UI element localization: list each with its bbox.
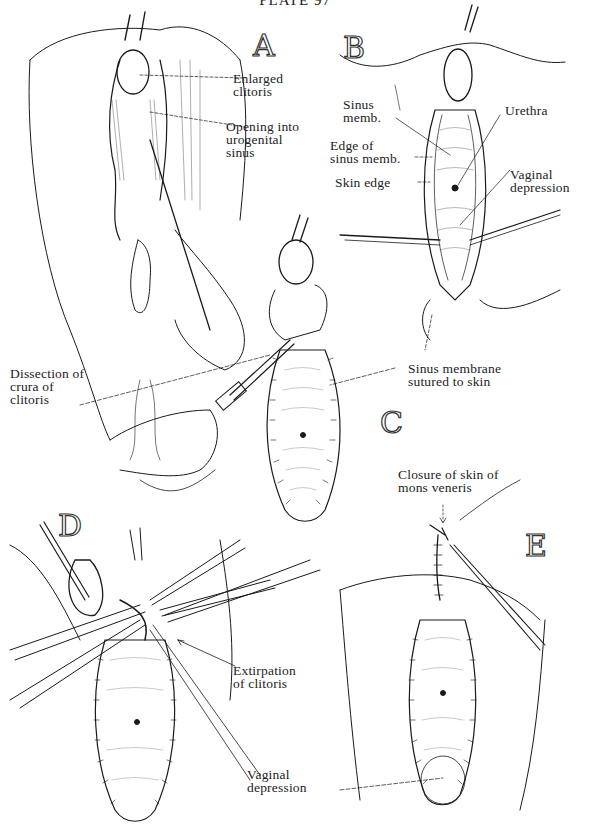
label-urethra: Urethra [505,104,548,117]
label-sinus-memb: Sinus memb. [343,98,381,124]
label-enlarged-clitoris: Enlarged clitoris [233,72,283,98]
label-vaginal-depression-b: Vaginal depression [510,168,570,194]
panel-e-drawing [340,480,545,810]
panel-letter-e: E [525,528,547,563]
panel-letter-d: D [58,508,82,543]
label-skin-edge: Skin edge [335,176,390,189]
label-edge-of-sinus-memb: Edge of sinus memb. [330,139,400,165]
label-extirpation-clitoris: Extirpation of clitoris [233,664,296,690]
label-opening-urogenital-sinus: Opening into urogenital sinus [226,120,299,159]
panel-c-drawing [80,215,395,521]
label-sinus-membrane-sutured: Sinus membrane sutured to skin [408,362,501,388]
panel-letter-c: C [380,405,403,440]
panel-letter-a: A [253,28,275,63]
panel-letter-b: B [343,30,365,65]
label-vaginal-depression-e: Vaginal depression [247,768,307,794]
label-dissection-crura: Dissection of crura of clitoris [10,367,84,406]
label-closure-mons-veneris: Closure of skin of mons veneris [398,468,499,494]
